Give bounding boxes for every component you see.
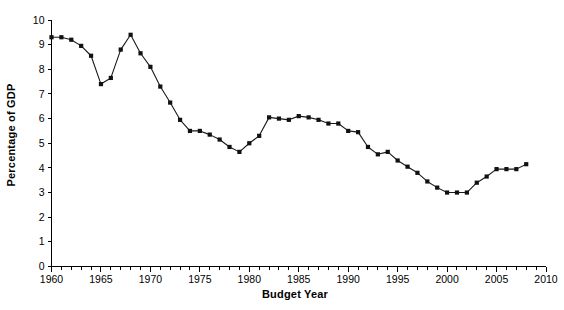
data-point (198, 129, 202, 133)
data-point (208, 133, 212, 137)
series-markers (49, 33, 528, 195)
x-tick-label: 1965 (89, 273, 113, 285)
data-point (49, 35, 53, 39)
data-point (514, 167, 518, 171)
x-tick-group: 1960196519701975198019851990199520002005… (40, 267, 558, 285)
data-point (257, 134, 261, 138)
data-point (218, 137, 222, 141)
x-tick-label: 1970 (139, 273, 163, 285)
chart-axes (52, 20, 547, 267)
data-point (158, 84, 162, 88)
data-point (178, 118, 182, 122)
y-tick-label: 0 (39, 260, 45, 272)
data-point (79, 44, 83, 48)
x-axis-label-text: Budget Year (262, 288, 328, 300)
y-tick-label: 1 (39, 235, 45, 247)
data-point (356, 130, 360, 134)
data-point (277, 117, 281, 121)
line-chart-plot: 012345678910 196019651970197519801985199… (0, 0, 564, 290)
data-point (376, 152, 380, 156)
x-axis-label: Budget Year (0, 288, 564, 300)
data-point (119, 47, 123, 51)
data-point (99, 82, 103, 86)
data-point (336, 121, 340, 125)
data-point (307, 115, 311, 119)
y-tick-label: 7 (39, 88, 45, 100)
x-tick-label: 1995 (386, 273, 410, 285)
y-tick-label: 3 (39, 186, 45, 198)
data-point (148, 65, 152, 69)
data-point (316, 118, 320, 122)
data-point (366, 145, 370, 149)
series-line (52, 35, 527, 193)
x-tick-label: 1960 (40, 273, 64, 285)
x-tick-label: 2005 (485, 273, 509, 285)
data-point (386, 150, 390, 154)
data-point (455, 190, 459, 194)
data-point (237, 150, 241, 154)
data-point (287, 118, 291, 122)
y-axis-label-text: Percentage of GDP (5, 83, 17, 186)
data-point (227, 145, 231, 149)
y-axis-label: Percentage of GDP (0, 0, 22, 270)
data-point (247, 141, 251, 145)
data-point (396, 158, 400, 162)
y-tick-label: 2 (39, 211, 45, 223)
data-point (109, 76, 113, 80)
data-point (485, 174, 489, 178)
data-point (504, 167, 508, 171)
x-tick-label: 1980 (238, 273, 262, 285)
y-tick-label: 5 (39, 137, 45, 149)
y-tick-label: 8 (39, 63, 45, 75)
data-point (465, 190, 469, 194)
data-point (89, 54, 93, 58)
y-tick-label: 9 (39, 38, 45, 50)
x-tick-label: 1975 (188, 273, 212, 285)
data-point (425, 179, 429, 183)
x-tick-label: 1985 (287, 273, 311, 285)
chart-figure: Percentage of GDP 012345678910 196019651… (0, 0, 564, 310)
data-point (524, 162, 528, 166)
data-point (415, 171, 419, 175)
data-point (445, 190, 449, 194)
data-point (494, 167, 498, 171)
data-point (69, 38, 73, 42)
data-point (138, 51, 142, 55)
data-series-group (49, 33, 528, 195)
y-tick-group: 012345678910 (33, 14, 52, 273)
y-tick-label: 6 (39, 112, 45, 124)
data-point (435, 186, 439, 190)
x-tick-label: 2010 (534, 273, 558, 285)
data-point (297, 114, 301, 118)
y-tick-label: 10 (33, 14, 45, 26)
data-point (168, 100, 172, 104)
data-point (59, 35, 63, 39)
data-point (129, 33, 133, 37)
data-point (405, 165, 409, 169)
y-tick-label: 4 (39, 162, 45, 174)
data-point (475, 181, 479, 185)
data-point (326, 121, 330, 125)
x-tick-label: 2000 (435, 273, 459, 285)
data-point (188, 129, 192, 133)
data-point (346, 129, 350, 133)
data-point (267, 115, 271, 119)
x-tick-label: 1990 (337, 273, 361, 285)
